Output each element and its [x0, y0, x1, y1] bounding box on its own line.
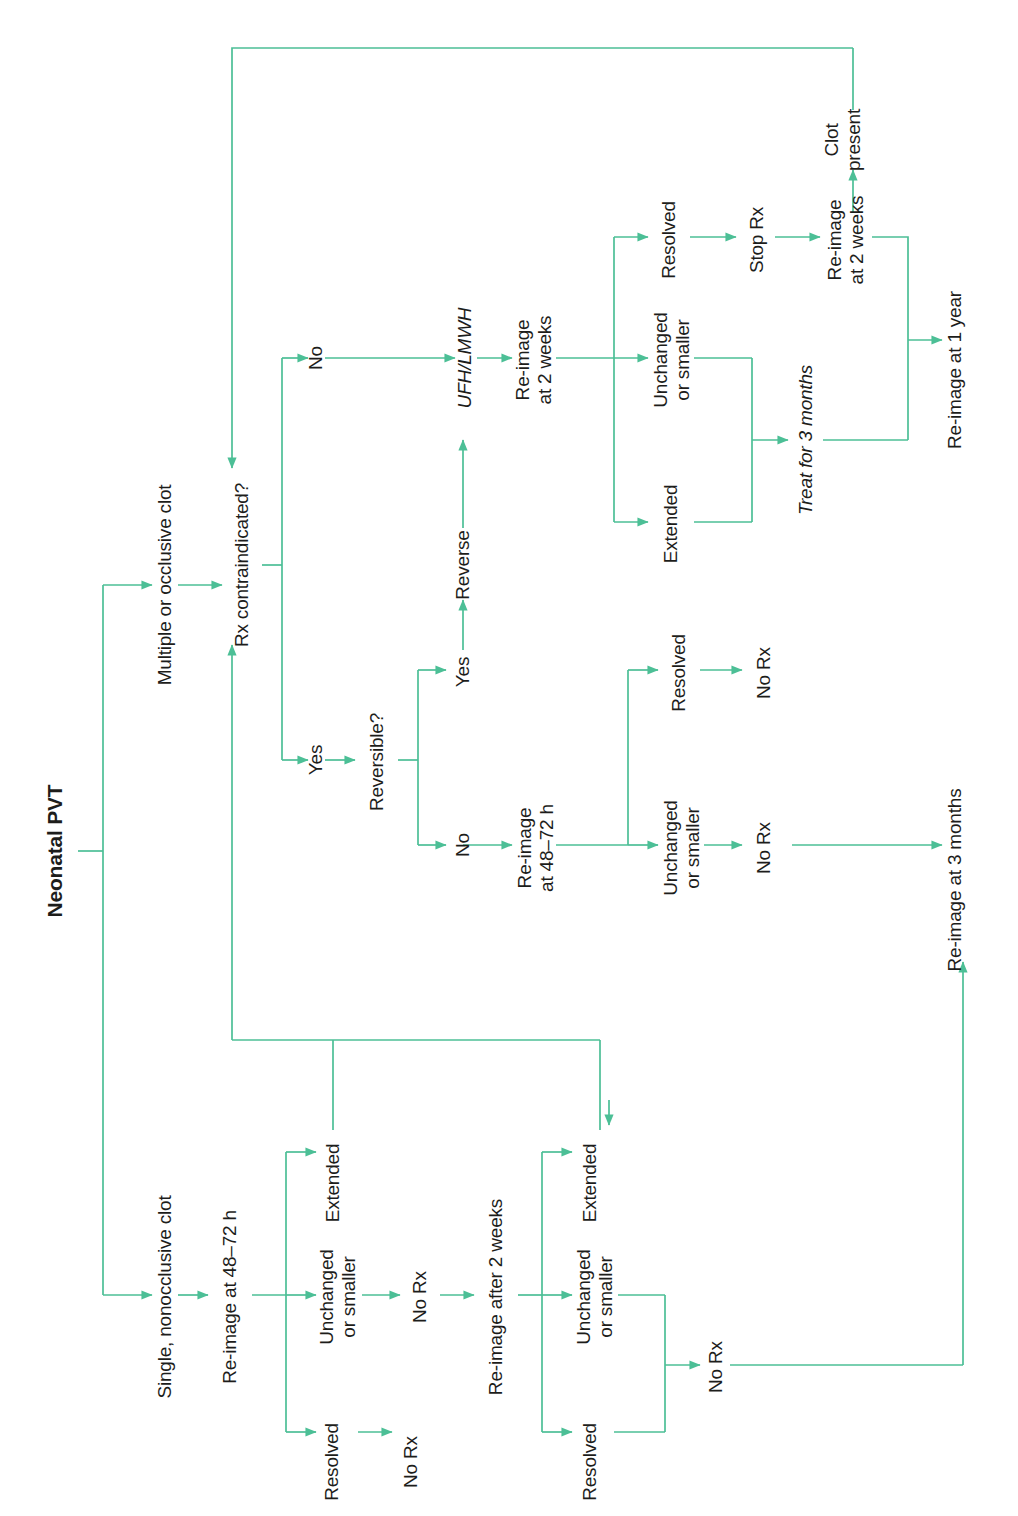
node-resolved-upper: Resolved — [658, 201, 680, 279]
node-unchanged-or-smaller-lower2: Unchanged or smaller — [573, 1249, 618, 1344]
node-resolved-lower1: Resolved — [321, 1423, 343, 1501]
node-reimage-48-72-mid: Re-image at 48–72 h — [514, 804, 559, 892]
node-no-rx-lower1: No Rx — [409, 1271, 431, 1323]
node-branch-no-top: No — [305, 346, 327, 370]
node-reimage-after-2-weeks: Re-image after 2 weeks — [485, 1199, 507, 1395]
node-single-nonocclusive-clot: Single, nonocclusive clot — [154, 1195, 176, 1398]
edge-clot-loop-horizontal — [232, 48, 853, 108]
node-reimage-2weeks-upper: Re-image at 2 weeks — [512, 316, 557, 405]
node-stop-rx: Stop Rx — [746, 207, 768, 273]
node-reversible-no: No — [452, 833, 474, 857]
node-reversible-yes: Yes — [452, 657, 474, 687]
node-no-rx-lower2: No Rx — [705, 1341, 727, 1393]
node-reversible: Reversible? — [366, 713, 388, 811]
node-treat-for-3-months: Treat for 3 months — [795, 365, 817, 515]
node-reimage-48-72-lower: Re-image at 48–72 h — [219, 1210, 241, 1384]
node-reimage-1-year: Re-image at 1 year — [944, 291, 966, 449]
node-multiple-or-occlusive-clot: Multiple or occlusive clot — [154, 485, 176, 686]
flowchart-canvas: Neonatal PVT Multiple or occlusive clot … — [0, 0, 1018, 1516]
node-reimage-3-months: Re-image at 3 months — [944, 789, 966, 972]
node-no-rx-mid-resolved: No Rx — [753, 647, 775, 699]
node-unchanged-or-smaller-mid: Unchanged or smaller — [660, 800, 705, 895]
node-no-rx-lower1-resolved: No Rx — [400, 1436, 422, 1488]
node-title: Neonatal PVT — [43, 785, 68, 918]
node-extended-upper: Extended — [660, 485, 682, 564]
node-reimage-2weeks-stoprx: Re-image at 2 weeks — [824, 196, 869, 285]
node-unchanged-or-smaller-upper: Unchanged or smaller — [650, 312, 695, 407]
node-no-rx-mid-unchanged: No Rx — [753, 822, 775, 874]
node-clot-present: Clot present — [821, 109, 866, 171]
node-extended-lower1: Extended — [322, 1144, 344, 1223]
edge-stoprx-reimage-to-1year — [872, 237, 908, 340]
node-rx-contraindicated: Rx contraindicated? — [231, 483, 253, 647]
node-branch-yes-bottom: Yes — [305, 745, 327, 775]
node-ufh-lmwh: UFH/LMWH — [454, 308, 476, 409]
node-reverse: Reverse — [452, 530, 474, 599]
node-resolved-lower2: Resolved — [579, 1423, 601, 1501]
node-resolved-mid: Resolved — [668, 634, 690, 712]
node-unchanged-or-smaller-lower1: Unchanged or smaller — [316, 1249, 361, 1344]
node-extended-lower2: Extended — [579, 1144, 601, 1223]
